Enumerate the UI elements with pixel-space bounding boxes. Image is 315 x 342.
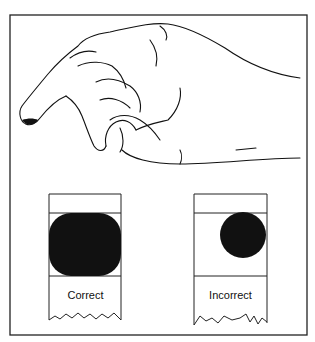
spot-incorrect [220, 212, 266, 258]
hand-illustration [20, 24, 300, 164]
label-incorrect: Incorrect [194, 289, 267, 301]
sample-card-incorrect [194, 194, 267, 325]
label-correct: Correct [49, 289, 122, 301]
spot-correct [49, 213, 121, 276]
diagram-frame [0, 0, 315, 342]
